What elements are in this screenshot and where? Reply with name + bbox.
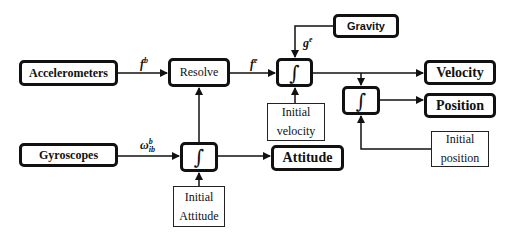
position-label: Position: [436, 98, 484, 114]
edge-label-sup: b: [144, 56, 148, 65]
gyroscopes-label: Gyroscopes: [39, 148, 98, 163]
edge-label-f-b: fb: [140, 56, 148, 72]
connector-lines: [0, 0, 510, 239]
integral-icon: ∫: [194, 145, 204, 169]
initial-attitude-block: Initial Attitude: [173, 186, 225, 227]
initial-velocity-line2: velocity: [277, 122, 316, 141]
velocity-output-block: Velocity: [424, 60, 496, 85]
edge-label-f-e: fe: [250, 56, 258, 72]
resolve-label: Resolve: [180, 65, 219, 80]
gravity-block: Gravity: [333, 14, 399, 38]
edge-label-sup: e: [254, 56, 258, 65]
arrow-gravity-to-intv: [295, 26, 333, 57]
attitude-output-block: Attitude: [271, 145, 344, 171]
edge-label-base: ω: [140, 138, 149, 152]
initial-position-line1: Initial: [446, 130, 475, 149]
position-integrator-block: ∫: [342, 86, 380, 115]
integral-icon: ∫: [289, 61, 299, 85]
gyroscopes-block: Gyroscopes: [19, 143, 118, 167]
velocity-label: Velocity: [436, 65, 484, 81]
velocity-integrator-block: ∫: [276, 58, 313, 87]
integral-icon: ∫: [356, 89, 366, 113]
edge-label-sub: ib: [149, 146, 155, 154]
initial-velocity-line1: Initial: [282, 103, 311, 122]
edge-label-g-e: ge: [303, 35, 313, 51]
attitude-integrator-block: ∫: [180, 142, 218, 172]
edge-label-sup: e: [309, 35, 313, 44]
arrow-initpos-to-intp: [361, 116, 431, 149]
initial-velocity-block: Initial velocity: [267, 103, 325, 141]
initial-position-block: Initial position: [431, 131, 489, 167]
initial-attitude-line2: Attitude: [179, 207, 218, 226]
position-output-block: Position: [424, 93, 496, 118]
accelerometers-label: Accelerometers: [29, 66, 108, 81]
attitude-label: Attitude: [283, 150, 333, 166]
resolve-block: Resolve: [168, 58, 230, 87]
accelerometers-block: Accelerometers: [19, 60, 118, 86]
gravity-label: Gravity: [347, 20, 385, 32]
ins-block-diagram: Accelerometers Resolve Gravity ∫ Velocit…: [0, 0, 510, 239]
initial-attitude-line1: Initial: [185, 188, 214, 207]
edge-label-omega-ib-b: ωbib: [140, 138, 155, 154]
initial-position-line2: position: [441, 149, 480, 168]
